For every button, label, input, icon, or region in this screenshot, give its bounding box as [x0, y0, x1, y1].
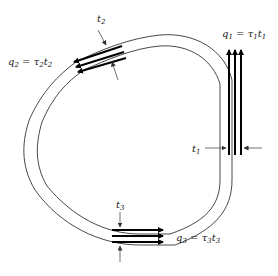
label-q3: q3 = τ3t3 — [176, 232, 221, 245]
tube-outer-wall — [24, 35, 232, 245]
label-q1: q1 = τ1t1 — [222, 28, 266, 41]
tube-inner-wall — [37, 46, 220, 234]
label-t3: t3 — [116, 199, 125, 212]
label-q2: q2 = τ2t2 — [8, 56, 53, 69]
label-t2: t2 — [97, 13, 106, 26]
label-t1: t1 — [192, 143, 201, 156]
shear-flow-diagram: t2 q2 = τ2t2 q1 = τ1t1 t1 t3 q3 = τ3t3 — [0, 0, 278, 276]
shear-flow-arrows-q2 — [74, 46, 126, 72]
shear-flow-arrows-q1 — [229, 50, 241, 155]
